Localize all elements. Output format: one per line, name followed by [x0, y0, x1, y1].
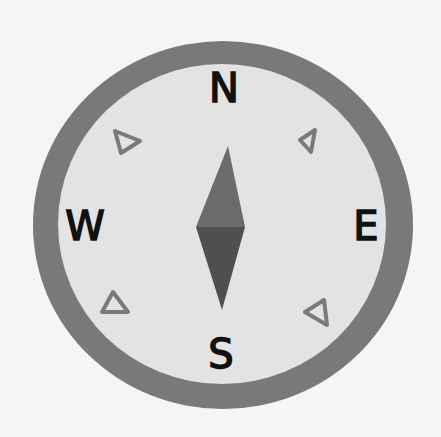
direction-west: W — [65, 206, 105, 246]
direction-south: S — [208, 334, 233, 374]
direction-north: N — [209, 68, 239, 108]
direction-east: E — [353, 206, 378, 246]
compass: N E S W — [0, 0, 441, 437]
